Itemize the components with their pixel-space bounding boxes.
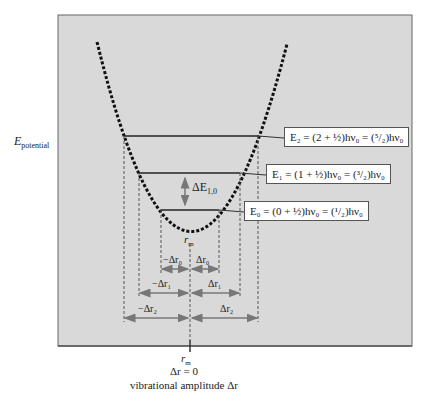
y-axis-label: Epotential bbox=[14, 134, 49, 150]
vertex-label: rm bbox=[184, 233, 194, 248]
amp-neg-2: −Δr₂ bbox=[138, 303, 157, 314]
amp-neg-1: −Δr₁ bbox=[152, 278, 171, 289]
potential-energy-diagram: Epotential ΔE1,0 rm E₂ = (2 + ½)hν₀ = (⁵… bbox=[0, 0, 436, 402]
amp-pos-1: Δr₁ bbox=[208, 278, 221, 289]
delta-e-label: ΔE1,0 bbox=[192, 180, 217, 196]
diagram-canvas bbox=[0, 0, 436, 402]
x-axis-zero: Δr = 0 bbox=[170, 365, 198, 377]
x-axis-caption: vibrational amplitude Δr bbox=[130, 379, 238, 391]
amp-pos-0: Δr₀ bbox=[196, 254, 209, 265]
level-label-e0: E₀ = (0 + ½)hν₀ = (¹/₂)hν₀ bbox=[244, 201, 369, 221]
level-label-e1: E₁ = (1 + ½)hν₀ = (³/₂)hν₀ bbox=[266, 164, 391, 184]
amp-pos-2: Δr₂ bbox=[220, 303, 233, 314]
amp-neg-0: −Δr₀ bbox=[163, 254, 182, 265]
level-label-e2: E₂ = (2 + ½)hν₀ = (⁵/₂)hν₀ bbox=[284, 127, 409, 147]
